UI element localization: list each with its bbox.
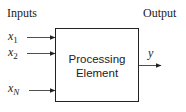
input-x2: x2 [7, 45, 55, 61]
input-xN-label: xN [7, 81, 20, 97]
processing-element-box [56, 29, 139, 102]
input-xN: xN [7, 81, 55, 97]
inputs-label: Inputs [7, 6, 37, 20]
input-x2-label: x2 [7, 45, 18, 61]
output-y: y [139, 46, 161, 66]
input-x1-label: x1 [7, 29, 18, 45]
processing-element-diagram: Inputs Output Processing Element x1 x2 x… [0, 0, 186, 112]
output-label: Output [143, 6, 177, 20]
input-x1: x1 [7, 29, 55, 45]
output-y-label: y [147, 46, 154, 60]
box-label-line2: Element [76, 67, 119, 79]
box-label-line1: Processing [69, 53, 126, 65]
